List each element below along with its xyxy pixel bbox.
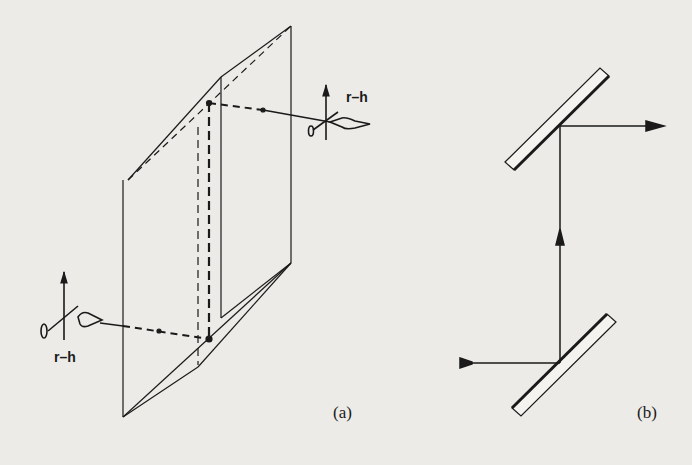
bottom-mirror [512,314,616,416]
panel-label-b: (b) [637,403,657,422]
eye-icon [78,313,102,327]
light-beam [460,121,664,368]
lower-ray [100,323,212,342]
lower-reflecting-plane [123,77,291,417]
top-mirror [505,68,609,170]
label-rh-upper: r–h [346,89,368,105]
up-arrow-icon [556,229,564,245]
right-arrow-icon [646,121,664,131]
internal-ray-path [198,103,209,365]
eye-observer-lower-left [41,272,102,340]
panel-label-a: (a) [333,403,352,422]
beam-tail-icon [460,358,472,368]
panel-b [460,68,664,416]
upper-ray [207,101,331,123]
eye-icon [330,118,370,129]
periscope-figure: r–h r–h (a) (b) [0,0,692,465]
panel-a [100,26,330,417]
label-rh-lower: r–h [54,349,76,365]
